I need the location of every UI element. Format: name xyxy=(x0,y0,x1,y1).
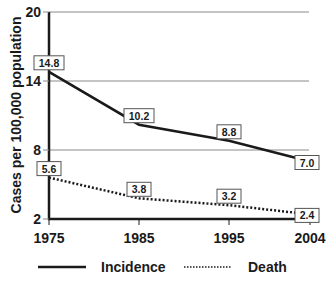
svg-text:7.0: 7.0 xyxy=(300,157,315,169)
series-line-death xyxy=(49,178,310,215)
data-label-death: 2.4 xyxy=(295,208,319,222)
y-tick-label: 14 xyxy=(25,73,41,89)
svg-text:14.8: 14.8 xyxy=(39,57,60,69)
line-chart: 281420 1975198519952004 Cases per 100,00… xyxy=(0,0,329,282)
data-label-death: 3.2 xyxy=(217,189,241,203)
legend: Incidence Death xyxy=(38,259,287,275)
data-label-incidence: 7.0 xyxy=(295,156,319,170)
chart-canvas: 281420 1975198519952004 Cases per 100,00… xyxy=(0,0,329,282)
svg-text:3.2: 3.2 xyxy=(222,190,237,202)
svg-text:2.4: 2.4 xyxy=(300,209,315,221)
x-tick-label: 2004 xyxy=(294,230,325,246)
x-tick-label: 1985 xyxy=(123,230,154,246)
y-tick-label: 2 xyxy=(33,211,41,227)
y-tick-label: 20 xyxy=(25,4,41,20)
y-tick-label: 8 xyxy=(33,142,41,158)
y-axis-ticks: 281420 xyxy=(25,4,49,227)
series-line-incidence xyxy=(49,72,310,162)
y-axis-label: Cases per 100,000 population xyxy=(8,17,24,214)
data-label-death: 3.8 xyxy=(127,182,151,196)
svg-text:3.8: 3.8 xyxy=(132,183,147,195)
data-label-death: 5.6 xyxy=(37,162,61,176)
data-label-incidence: 8.8 xyxy=(217,125,241,139)
svg-text:10.2: 10.2 xyxy=(129,110,150,122)
x-axis-ticks: 1975198519952004 xyxy=(33,219,325,246)
legend-label-death: Death xyxy=(248,259,287,275)
x-tick-label: 1975 xyxy=(33,230,64,246)
legend-label-incidence: Incidence xyxy=(101,259,166,275)
data-label-incidence: 10.2 xyxy=(124,109,154,123)
gridlines xyxy=(49,12,309,150)
svg-text:5.6: 5.6 xyxy=(42,163,57,175)
data-label-incidence: 14.8 xyxy=(34,56,64,70)
x-tick-label: 1995 xyxy=(213,230,244,246)
axes xyxy=(48,12,310,220)
svg-text:8.8: 8.8 xyxy=(222,126,237,138)
data-series xyxy=(49,72,310,215)
